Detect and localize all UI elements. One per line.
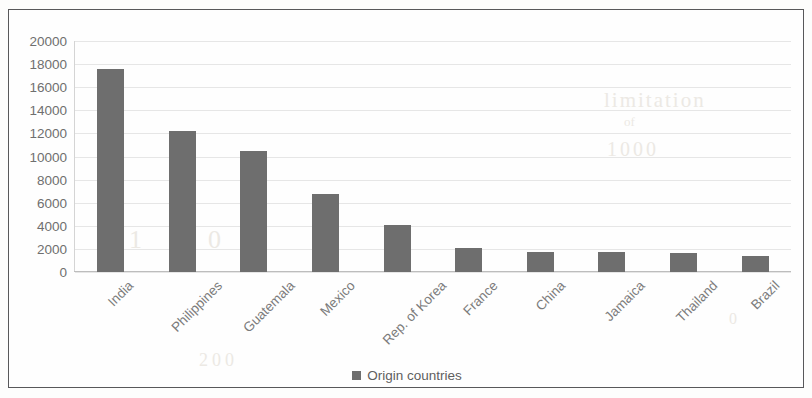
- value-axis-tick-label: 14000: [29, 103, 67, 118]
- category-label-slot: India: [75, 276, 147, 356]
- category-axis-tick-label: Philippines: [169, 278, 226, 335]
- value-axis-tick-label: 20000: [29, 34, 67, 49]
- bar[interactable]: [527, 252, 554, 272]
- category-label-slot: Brazil: [719, 276, 791, 356]
- gridline: [75, 272, 791, 273]
- bar[interactable]: [455, 248, 482, 272]
- value-axis-tick-label: 6000: [37, 195, 67, 210]
- legend-swatch-icon: [352, 371, 361, 380]
- category-axis-tick-label: France: [460, 278, 500, 318]
- value-axis-tick-label: 16000: [29, 80, 67, 95]
- plot-area: 2000018000160001400012000100008000600040…: [75, 41, 791, 272]
- legend-entry-label: Origin countries: [367, 368, 462, 383]
- category-label-slot: Rep. of Korea: [361, 276, 433, 356]
- value-axis-tick-label: 18000: [29, 57, 67, 72]
- bar-slot: [361, 41, 433, 272]
- bar[interactable]: [742, 256, 769, 272]
- bar-slot: [218, 41, 290, 272]
- bar-series-origin-countries: [75, 41, 791, 272]
- bar-slot: [719, 41, 791, 272]
- bar-slot: [75, 41, 147, 272]
- bar-slot: [433, 41, 505, 272]
- category-label-slot: Thailand: [648, 276, 720, 356]
- category-label-slot: Guatemala: [218, 276, 290, 356]
- category-axis-tick-label: India: [105, 278, 136, 309]
- bar[interactable]: [670, 253, 697, 272]
- category-axis-labels: IndiaPhilippinesGuatemalaMexicoRep. of K…: [75, 276, 791, 356]
- bar[interactable]: [240, 151, 267, 272]
- bar-slot: [648, 41, 720, 272]
- bar[interactable]: [384, 225, 411, 272]
- bar[interactable]: [312, 194, 339, 272]
- value-axis-tick-label: 8000: [37, 172, 67, 187]
- category-label-slot: Mexico: [290, 276, 362, 356]
- value-axis-tick-label: 0: [59, 265, 67, 280]
- chart-legend: Origin countries: [9, 368, 805, 383]
- bar-slot: [290, 41, 362, 272]
- category-axis-tick-label: Brazil: [748, 278, 782, 312]
- scanned-page: limitation of 1000 1 0 0 0 200 0 2000018…: [0, 0, 812, 398]
- category-label-slot: Philippines: [147, 276, 219, 356]
- value-axis-tick-label: 2000: [37, 241, 67, 256]
- category-axis-tick-label: Thailand: [673, 278, 720, 325]
- bar-slot: [576, 41, 648, 272]
- bar[interactable]: [169, 131, 196, 272]
- category-axis-tick-label: China: [533, 278, 569, 314]
- bar[interactable]: [598, 252, 625, 272]
- category-axis-tick-label: Jamaica: [602, 278, 648, 324]
- category-axis-tick-label: Mexico: [317, 278, 358, 319]
- value-axis-tick-label: 12000: [29, 126, 67, 141]
- bar-slot: [505, 41, 577, 272]
- value-axis-tick-label: 4000: [37, 218, 67, 233]
- category-label-slot: China: [505, 276, 577, 356]
- category-label-slot: France: [433, 276, 505, 356]
- bar-slot: [147, 41, 219, 272]
- chart-figure: limitation of 1000 1 0 0 0 200 0 2000018…: [8, 9, 804, 388]
- category-label-slot: Jamaica: [576, 276, 648, 356]
- value-axis-tick-label: 10000: [29, 149, 67, 164]
- bar[interactable]: [97, 69, 124, 272]
